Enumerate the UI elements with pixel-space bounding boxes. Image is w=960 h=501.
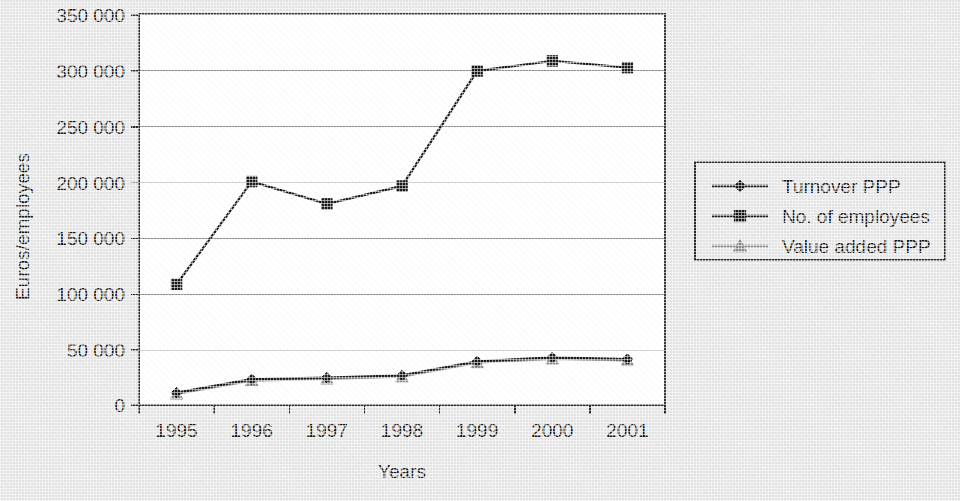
legend-item[interactable]: Value added PPP [712, 236, 931, 257]
y-tick-label: 300 000 [56, 61, 125, 82]
legend-item[interactable]: Turnover PPP [712, 176, 901, 197]
y-axis-tick-labels: 350 000 300 000 250 000 200 000 150 000 … [56, 5, 125, 416]
x-tick-label: 2001 [606, 420, 648, 441]
x-axis-title: Years [378, 461, 426, 482]
y-tick-label: 0 [114, 395, 125, 416]
y-tick-label: 100 000 [56, 284, 125, 305]
y-axis-ticks [131, 15, 139, 405]
data-point-marker [547, 56, 557, 66]
x-tick-label: 1995 [155, 420, 197, 441]
legend-label: No. of employees [782, 206, 930, 227]
legend-marker-square-icon [734, 210, 745, 221]
legend-item[interactable]: No. of employees [712, 206, 930, 227]
y-tick-label: 200 000 [56, 173, 125, 194]
data-point-marker [622, 62, 632, 72]
y-axis-title: Euros/employees [12, 153, 33, 300]
legend-entries: Turnover PPPNo. of employeesValue added … [712, 176, 931, 257]
x-axis-tick-labels: 1995 1996 1997 1998 1999 2000 2001 [155, 420, 648, 441]
data-point-marker [472, 66, 482, 76]
data-point-marker [171, 279, 181, 289]
x-tick-label: 2000 [531, 420, 573, 441]
y-tick-label: 250 000 [56, 117, 125, 138]
x-axis-ticks [139, 405, 665, 414]
y-tick-label: 150 000 [56, 228, 125, 249]
data-point-marker [247, 176, 257, 186]
chart-figure: 350 000 300 000 250 000 200 000 150 000 … [0, 0, 960, 501]
x-tick-label: 1997 [306, 420, 348, 441]
x-tick-label: 1998 [381, 420, 423, 441]
plot-area [139, 14, 665, 405]
legend: Turnover PPPNo. of employeesValue added … [695, 162, 945, 260]
data-point-marker [397, 181, 407, 191]
line-chart: 350 000 300 000 250 000 200 000 150 000 … [0, 0, 960, 501]
x-tick-label: 1996 [231, 420, 273, 441]
legend-marker-diamond-icon [734, 180, 746, 192]
x-tick-label: 1999 [456, 420, 498, 441]
data-point-marker [322, 199, 332, 209]
y-tick-label: 350 000 [56, 5, 125, 26]
legend-label: Value added PPP [782, 236, 931, 257]
legend-label: Turnover PPP [782, 176, 901, 197]
y-tick-label: 50 000 [67, 340, 125, 361]
